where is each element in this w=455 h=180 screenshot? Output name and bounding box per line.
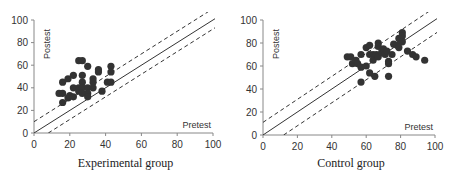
x-tick-label: 100 [427, 141, 444, 152]
x-tick-label: 80 [395, 141, 407, 152]
data-point [388, 51, 395, 58]
data-point [399, 38, 406, 45]
y-axis-label: Postest [271, 28, 281, 59]
control-chart: 020406080100020406080100PostestPretestCo… [240, 5, 443, 170]
y-tick-label: 40 [246, 84, 258, 95]
data-point [385, 60, 392, 67]
data-point [421, 57, 428, 64]
data-point [79, 72, 86, 79]
x-tick-label: 60 [136, 139, 148, 150]
y-tick-label: 40 [17, 82, 29, 93]
x-tick-label: 40 [100, 139, 112, 150]
y-tick-label: 0 [22, 128, 28, 139]
data-point [357, 79, 364, 86]
data-point [107, 68, 114, 75]
x-axis-label: Pretest [404, 122, 433, 132]
data-point [107, 79, 114, 86]
y-tick-label: 80 [246, 38, 258, 49]
scatter-figure: 020406080100020406080100PostestPretestEx… [0, 0, 455, 180]
data-point [366, 42, 373, 49]
data-point [385, 73, 392, 80]
data-point [70, 93, 77, 100]
data-point [98, 88, 105, 95]
data-point [84, 63, 91, 70]
data-point [95, 68, 102, 75]
identity-line [263, 18, 438, 135]
data-point [363, 62, 370, 69]
data-point [357, 51, 364, 58]
x-tick-label: 20 [292, 141, 304, 152]
identity-line [34, 18, 217, 133]
x-axis-label: Pretest [182, 120, 211, 130]
y-tick-label: 60 [246, 61, 258, 72]
x-tick-label: 40 [326, 141, 338, 152]
x-tick-label: 100 [205, 139, 222, 150]
chart-caption: Control group [317, 156, 385, 170]
y-tick-label: 20 [246, 107, 258, 118]
lower-band-line [48, 27, 216, 133]
x-tick-label: 20 [64, 139, 76, 150]
data-point [84, 93, 91, 100]
x-tick-label: 0 [31, 139, 37, 150]
data-point [371, 73, 378, 80]
y-tick-label: 60 [17, 60, 29, 71]
x-tick-label: 80 [172, 139, 184, 150]
y-tick-label: 0 [251, 130, 257, 141]
experimental-chart: 020406080100020406080100PostestPretestEx… [11, 6, 221, 170]
data-point [70, 72, 77, 79]
data-point [79, 57, 86, 64]
y-tick-label: 100 [11, 15, 28, 26]
y-tick-label: 80 [17, 37, 29, 48]
y-axis-label: Postest [42, 28, 52, 59]
data-point [89, 84, 96, 91]
chart-caption: Experimental group [78, 156, 174, 170]
data-point [412, 53, 419, 60]
y-tick-label: 100 [240, 15, 257, 26]
x-tick-label: 0 [260, 141, 266, 152]
y-tick-label: 20 [17, 105, 29, 116]
x-tick-label: 60 [361, 141, 373, 152]
